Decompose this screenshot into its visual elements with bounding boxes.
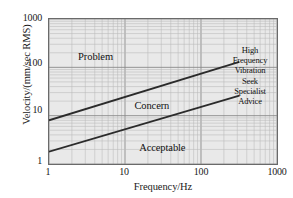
y-tick-label-100: 100 — [0, 58, 42, 68]
y-tick-label-10: 10 — [0, 105, 42, 115]
x-tick-label-10: 10 — [104, 167, 144, 177]
x-axis-title: Frequency/Hz — [48, 181, 278, 192]
vibration-severity-chart: Velocity/(mm/sec RMS) 1000 100 10 1 1 10… — [0, 0, 293, 198]
x-tick-label-1: 1 — [28, 167, 68, 177]
x-tick-label-1000: 1000 — [257, 167, 293, 177]
x-tick-label-100: 100 — [181, 167, 221, 177]
plot-area: Problem Concern Acceptable High Frequenc… — [48, 18, 278, 165]
y-tick-label-1000: 1000 — [0, 13, 42, 23]
y-tick-label-1: 1 — [0, 156, 42, 166]
boundary-lines — [49, 19, 277, 164]
